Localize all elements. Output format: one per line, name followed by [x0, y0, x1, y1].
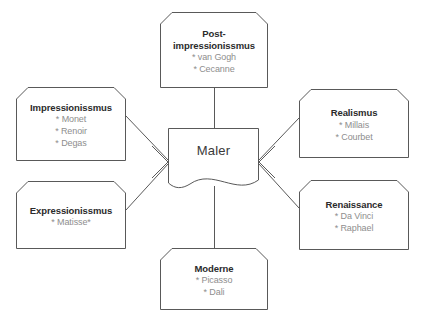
center-node-maler[interactable]: Maler	[168, 128, 259, 190]
node-expressionissmus[interactable]: Expressionissmus * Matisse*	[16, 181, 126, 249]
node-item: * Matisse*	[51, 216, 91, 228]
node-item: * Dali	[204, 286, 225, 298]
node-title-continued: impressionissmus	[173, 40, 255, 52]
node-title: Expressionissmus	[30, 205, 112, 217]
node-item: * Picasso	[196, 274, 233, 286]
center-node-label: Maler	[168, 128, 259, 190]
node-item: * Monet	[56, 113, 86, 125]
node-title: Impressionissmus	[30, 102, 112, 114]
connector-realismus	[259, 118, 299, 160]
node-renaissance[interactable]: Renaissance * Da Vinci * Raphael	[299, 180, 409, 250]
node-impressionissmus[interactable]: Impressionissmus * Monet * Renoir * Dega…	[16, 87, 126, 161]
node-title: Moderne	[195, 263, 234, 275]
connector-impressionissmus	[126, 116, 168, 160]
mind-map-diagram: Maler Post- impressionissmus * van Gogh …	[0, 0, 425, 318]
node-item: * Raphael	[335, 222, 374, 234]
connector-renaissance	[259, 164, 299, 208]
node-item: * Degas	[55, 137, 86, 149]
node-item: * van Gogh	[192, 51, 236, 63]
node-item: * Courbet	[335, 131, 372, 143]
node-item: * Cecanne	[193, 63, 234, 75]
node-post-impressionissmus[interactable]: Post- impressionissmus * van Gogh * Ceca…	[160, 12, 268, 88]
node-title: Post-	[202, 28, 225, 40]
node-item: * Da Vinci	[335, 210, 373, 222]
connector-expressionissmus	[126, 164, 168, 210]
node-item: * Millais	[339, 119, 369, 131]
node-moderne[interactable]: Moderne * Picasso * Dali	[160, 248, 268, 310]
node-realismus[interactable]: Realismus * Millais * Courbet	[299, 89, 409, 158]
node-item: * Renoir	[55, 125, 87, 137]
node-title: Realismus	[331, 107, 378, 119]
node-title: Renaissance	[326, 199, 383, 211]
